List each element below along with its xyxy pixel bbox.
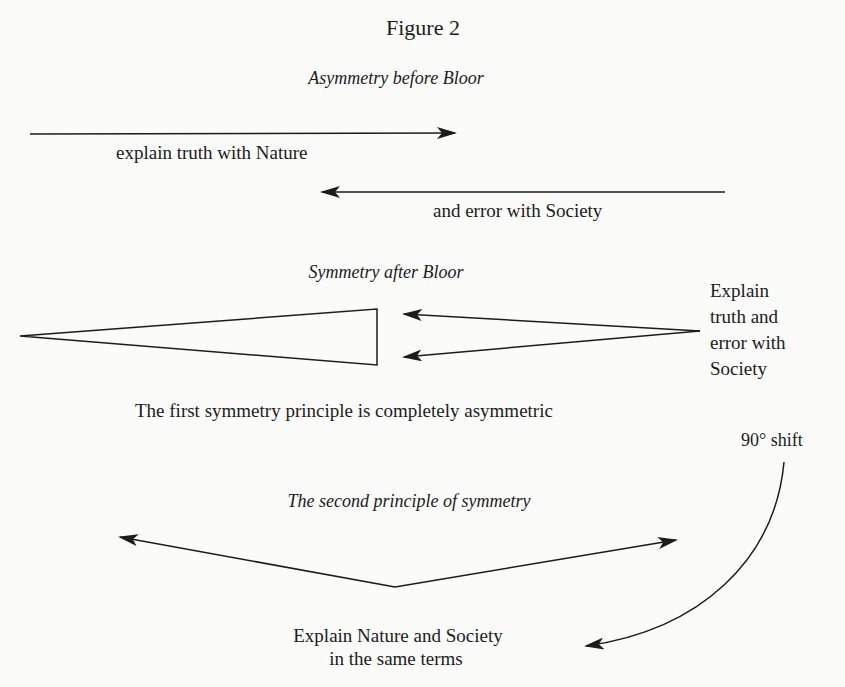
caption-first-principle: The first symmetry principle is complete…: [135, 401, 553, 420]
heading-asymmetry: Asymmetry before Bloor: [308, 69, 483, 87]
shift-curve-arrow: [586, 462, 784, 646]
figure-title: Figure 2: [386, 17, 460, 39]
arrow-second-right: [395, 540, 676, 587]
label-explain-truth-error: Explain truth and error with Society: [710, 278, 785, 382]
symmetry-wedge: [20, 309, 377, 365]
caption-explain-same-terms-1: Explain Nature and Society: [293, 626, 502, 645]
heading-second-principle: The second principle of symmetry: [288, 492, 531, 510]
label-error-society: and error with Society: [433, 201, 602, 220]
caption-explain-same-terms-2: in the same terms: [329, 649, 463, 668]
heading-symmetry: Symmetry after Bloor: [309, 263, 464, 281]
arrow-society-upper: [404, 314, 700, 331]
arrow-second-left: [120, 537, 395, 587]
label-truth-nature: explain truth with Nature: [116, 143, 308, 162]
label-90-shift: 90° shift: [741, 431, 803, 449]
arrow-society-lower: [404, 331, 700, 357]
arrow-truth-nature: [30, 133, 455, 134]
